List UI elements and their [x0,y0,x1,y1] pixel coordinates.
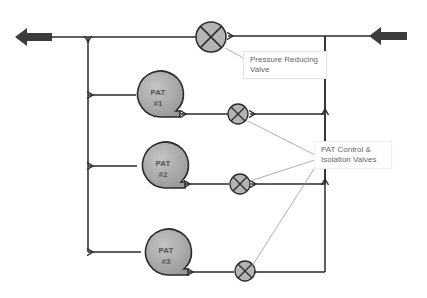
pressure-reducing-valve-icon [196,22,226,52]
pat-2-label-line-1: PAT [148,158,178,169]
pat-3-label-line-1: PAT [151,245,181,256]
return-riser [88,37,141,252]
pressure-reducing-valve-label: Pressure Reducing Valve [243,51,327,79]
pat-3-label: PAT #3 [151,245,181,267]
inlet-flow-arrow-icon [369,27,407,45]
pat-1-label: PAT #1 [143,87,173,109]
pat-bypass-diagram: Pressure Reducing Valve PAT Control & Is… [0,0,427,298]
prv-label-line-1: Pressure Reducing [250,55,320,65]
pat-3-label-line-2: #3 [151,256,181,267]
pat-2-valve-icon [230,174,250,194]
outlet-flow-arrow-icon [15,28,52,46]
pat-2-label-line-2: #2 [148,169,178,180]
pat-valves-label-line-1: PAT Control & [321,145,385,155]
pat-3-valve-icon [235,261,255,281]
pat-1-label-line-2: #1 [143,98,173,109]
pat-control-valves-label: PAT Control & Isolation Valves [314,141,392,169]
pat-valves-label-line-2: Isolation Valves [321,155,385,165]
prv-label-line-2: Valve [250,65,320,75]
callout-lines [225,48,321,266]
pat-1-label-line-1: PAT [143,87,173,98]
pat-1-valve-icon [228,104,248,124]
pat-2-label: PAT #2 [148,158,178,180]
